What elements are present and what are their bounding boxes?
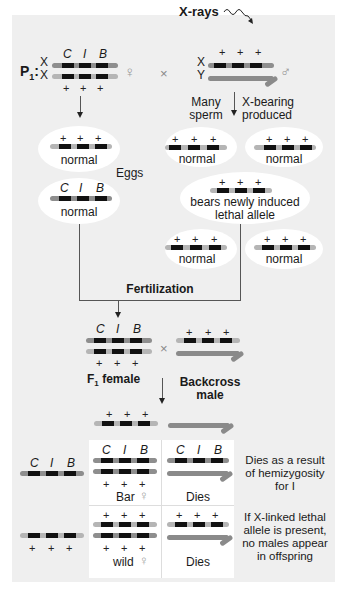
x-label-2: X (40, 69, 48, 82)
allele-b: B (140, 444, 148, 457)
plus-marker: + (63, 83, 69, 94)
gamete-x-chromosome (94, 421, 158, 426)
allele-b: B (214, 444, 222, 457)
plus-marker: + (210, 134, 216, 145)
plus-marker: + (124, 409, 130, 420)
backcross-y-chromosome (176, 351, 240, 356)
sperm-label: normal (162, 153, 232, 166)
hemizygosity-note: Dies as a result of hemizygosity for I (238, 454, 332, 493)
plus-marker: + (255, 177, 261, 188)
plus-marker: + (96, 358, 102, 369)
female-symbol-icon: ♀ (139, 553, 149, 568)
eggs-label: Eggs (116, 167, 143, 180)
plus-marker: + (205, 327, 211, 338)
arrow-line (162, 378, 163, 400)
sperm-label: normal (249, 153, 319, 166)
plus-marker: + (48, 543, 54, 554)
arrow-down-icon (115, 312, 121, 318)
allele-i: I (123, 444, 126, 457)
f1-chromosome-cib (86, 338, 152, 343)
female-symbol-icon: ♀ (139, 488, 149, 503)
cross-symbol: × (160, 67, 168, 80)
offspring-chromosome (93, 458, 157, 463)
female-symbol-icon: ♀ (124, 64, 135, 79)
allele-c: C (176, 444, 185, 457)
plus-marker: + (97, 83, 103, 94)
plus-marker: + (103, 479, 109, 490)
arrow-down-icon (159, 398, 165, 404)
offspring-y-chromosome (167, 471, 229, 476)
plus-marker: + (266, 134, 272, 145)
allele-c: C (60, 182, 69, 195)
arrow-line (234, 92, 235, 112)
plus-marker: + (29, 543, 35, 554)
plus-marker: + (191, 134, 197, 145)
offspring-y-chromosome (167, 535, 229, 540)
offspring-chromosome (93, 469, 157, 474)
egg-chromosome-cib (50, 196, 112, 201)
lethal-label: bears newly inducedlethal allele (180, 196, 310, 222)
bar-female-label: Bar (116, 491, 135, 504)
backcross-male-label: Backcrossmale (178, 376, 242, 402)
plus-marker: + (95, 133, 101, 144)
sperm-chromosome-lethal (210, 188, 272, 193)
allele-i: I (79, 182, 82, 195)
sperm-chromosome (165, 245, 227, 250)
plus-marker: + (264, 234, 270, 245)
allele-i: I (116, 323, 119, 336)
f1-chromosome-wild (86, 349, 152, 354)
allele-b: B (99, 48, 107, 61)
x-bearing-label: X-bearingproduced (242, 96, 294, 122)
plus-marker: + (186, 327, 192, 338)
wavy-arrow-icon (222, 6, 256, 26)
allele-b: B (67, 457, 75, 470)
male-y-label: Y (197, 69, 205, 82)
plus-marker: + (282, 234, 288, 245)
fertilization-label: Fertilization (79, 283, 241, 296)
allele-i: I (197, 444, 200, 457)
plus-marker: + (300, 234, 306, 245)
male-y-chromosome (208, 76, 274, 81)
allele-b: B (133, 323, 141, 336)
female-x-chromosome-cib (52, 63, 118, 68)
sperm-label: normal (162, 253, 232, 266)
wild-female-label: wild (113, 556, 134, 569)
plus-marker: + (121, 543, 127, 554)
table-divider-h (89, 505, 234, 506)
sperm-chromosome (254, 245, 316, 250)
f1-female-label: F1 female (87, 373, 140, 390)
plus-marker: + (302, 134, 308, 145)
xrays-label: X-rays (179, 5, 219, 18)
gamete-y-chromosome (168, 423, 230, 428)
plus-marker: + (60, 133, 66, 144)
dies-label: Dies (162, 556, 234, 569)
plus-marker: + (66, 543, 72, 554)
plus-marker: + (139, 510, 145, 521)
offspring-chromosome (167, 458, 229, 463)
plus-marker: + (114, 358, 120, 369)
egg-label: normal (38, 154, 120, 167)
connector-line (79, 300, 241, 301)
allele-c: C (102, 444, 111, 457)
plus-marker: + (192, 234, 198, 245)
allele-i: I (50, 457, 53, 470)
lethal-note: If X-linked lethal allele is present, no… (236, 511, 334, 563)
offspring-chromosome (93, 533, 157, 538)
offspring-chromosome (167, 522, 229, 527)
allele-c: C (30, 457, 39, 470)
arrow-down-icon (231, 110, 237, 116)
plus-marker: + (219, 47, 225, 58)
plus-marker: + (103, 543, 109, 554)
plus-marker: + (172, 134, 178, 145)
plus-marker: + (212, 510, 218, 521)
plus-marker: + (284, 134, 290, 145)
dies-label: Dies (162, 491, 234, 504)
male-symbol-icon: ♂ (280, 64, 291, 79)
plus-marker: + (142, 409, 148, 420)
sperm-chromosome (165, 145, 227, 150)
cross-symbol: × (160, 342, 168, 355)
plus-marker: + (106, 409, 112, 420)
plus-marker: + (121, 510, 127, 521)
male-x-chromosome (208, 63, 274, 68)
plus-marker: + (223, 327, 229, 338)
